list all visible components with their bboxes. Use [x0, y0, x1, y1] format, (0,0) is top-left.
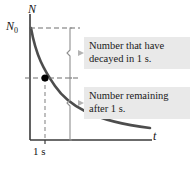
bracket-decayed	[67, 28, 72, 78]
y-axis-n0-base: N	[6, 19, 14, 33]
y-axis-n0-subscript: 0	[14, 26, 18, 35]
x-axis-title: t	[153, 129, 156, 144]
decay-curve-figure: N N0 t 1 s Number that have decayed in 1…	[0, 0, 190, 171]
y-axis-title: N	[28, 2, 36, 17]
chart-canvas	[0, 0, 190, 171]
x-axis-tick-label-1s: 1 s	[33, 145, 46, 157]
decay-point-marker	[41, 74, 48, 81]
callout-number-decayed: Number that have decayed in 1 s.	[84, 37, 190, 69]
bracket-remaining	[67, 78, 72, 140]
y-axis-n0-label: N0	[6, 19, 18, 35]
callout-number-remaining: Number remaining after 1 s.	[84, 87, 190, 119]
